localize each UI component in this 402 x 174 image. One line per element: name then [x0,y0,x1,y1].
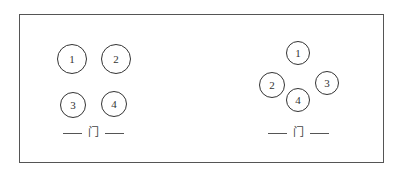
door-marker: 门 [266,126,330,140]
seat-circle: 4 [286,88,310,112]
seat-circle: 2 [259,72,285,98]
seat-circle: 2 [101,44,131,74]
seat-circle: 3 [60,92,86,118]
seat-circle: 3 [315,71,339,95]
seat-circle: 4 [101,91,127,117]
door-dash-left [268,133,287,134]
door-dash-left [63,133,82,134]
door-dash-right [310,133,329,134]
door-label: 门 [293,126,304,140]
door-dash-right [105,133,124,134]
door-marker: 门 [61,126,125,140]
door-label: 门 [88,126,99,140]
seat-circle: 1 [57,44,87,74]
seat-circle: 1 [286,41,310,65]
